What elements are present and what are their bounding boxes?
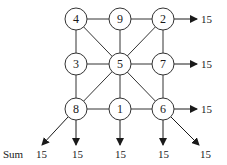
column-sum-label: 15 <box>36 148 48 160</box>
row-sum-arrows <box>174 19 197 109</box>
row-sums: 15 15 15 <box>201 13 213 115</box>
node-label: 9 <box>117 12 123 26</box>
node-label: 7 <box>160 57 166 71</box>
node-label: 6 <box>160 102 166 116</box>
column-sum-label: 15 <box>72 148 84 160</box>
node-label: 2 <box>160 12 166 26</box>
node-label: 5 <box>117 57 123 71</box>
column-sum-label: 15 <box>200 148 212 160</box>
arrow-down-right-icon <box>171 117 199 145</box>
node-label: 3 <box>73 57 79 71</box>
row-sum-label: 15 <box>201 13 213 25</box>
node-label: 1 <box>117 102 123 116</box>
column-sum-label: 15 <box>115 148 127 160</box>
row-sum-label: 15 <box>201 103 213 115</box>
node-label: 4 <box>73 12 79 26</box>
sum-label: Sum <box>3 148 24 160</box>
magic-square-diagram: 4 9 2 3 5 7 8 1 6 15 15 15 Sum 15 15 15 … <box>0 0 227 165</box>
arrow-down-left-icon <box>42 117 68 145</box>
column-sums: Sum 15 15 15 15 15 <box>3 148 212 160</box>
column-sum-arrows <box>42 117 199 145</box>
column-sum-label: 15 <box>158 148 170 160</box>
row-sum-label: 15 <box>201 58 213 70</box>
node-label: 8 <box>73 102 79 116</box>
